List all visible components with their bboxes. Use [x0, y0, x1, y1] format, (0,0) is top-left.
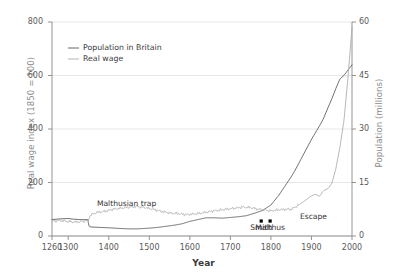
x-axis-tick-label: 1400 [89, 243, 129, 252]
y-axis-right-tick-label: 15 [359, 178, 399, 187]
y-axis-left-tick-label: 0 [3, 231, 43, 240]
x-axis-tick-label: 1500 [129, 243, 169, 252]
y-axis-left-tick-label: 200 [3, 178, 43, 187]
y-axis-right-tick-label: 0 [359, 231, 399, 240]
y-axis-left-tick-label: 800 [3, 17, 43, 26]
plot-area [0, 0, 407, 277]
x-axis-tick-label: 2000 [332, 243, 372, 252]
chart-annotation: Escape [291, 212, 335, 221]
legend-item-label: Real wage [83, 54, 123, 63]
chart-container: Real wage index (1850 = 100) Population … [0, 0, 407, 277]
legend-item-label: Population in Britain [83, 43, 162, 52]
x-axis-tick-label: 1600 [170, 243, 210, 252]
chart-annotation: Malthus [248, 223, 292, 232]
x-axis-tick-label: 1800 [251, 243, 291, 252]
y-axis-right-tick-label: 60 [359, 17, 399, 26]
chart-annotation: Malthusian trap [97, 199, 141, 208]
y-axis-right-tick-label: 30 [359, 124, 399, 133]
x-axis-tick-label: 1700 [210, 243, 250, 252]
x-axis-tick-label: 1900 [291, 243, 331, 252]
y-axis-right-tick-label: 45 [359, 71, 399, 80]
y-axis-left-tick-label: 400 [3, 124, 43, 133]
y-axis-left-tick-label: 600 [3, 71, 43, 80]
legend-swatches [68, 48, 79, 59]
x-axis-tick-label: 1300 [48, 243, 88, 252]
